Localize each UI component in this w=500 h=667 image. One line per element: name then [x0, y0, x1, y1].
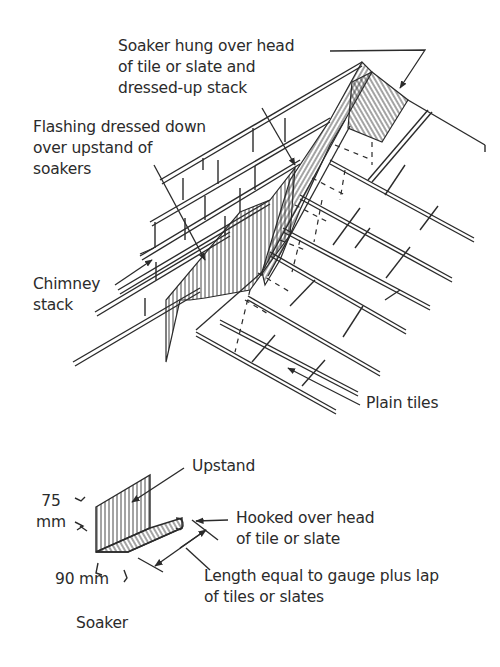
dimension-width: 90 mm	[55, 569, 109, 590]
label-chimney-stack: Chimney stack	[33, 274, 100, 316]
soaker-detail-drawing	[75, 468, 228, 582]
diagram-canvas: Soaker hung over head of tile or slate a…	[0, 0, 500, 667]
label-length: Length equal to gauge plus lap of tiles …	[204, 566, 439, 608]
soaker-title: Soaker	[76, 613, 128, 634]
flashing-hatched	[166, 62, 408, 362]
dimension-height: 75 mm	[36, 491, 66, 533]
label-plain-tiles: Plain tiles	[366, 393, 438, 414]
chimney-stack	[73, 62, 362, 366]
label-hooked: Hooked over head of tile or slate	[236, 508, 374, 550]
label-upstand: Upstand	[192, 456, 255, 477]
label-flashing: Flashing dressed down over upstand of so…	[33, 117, 206, 180]
label-soaker-hung: Soaker hung over head of tile or slate a…	[118, 36, 294, 99]
